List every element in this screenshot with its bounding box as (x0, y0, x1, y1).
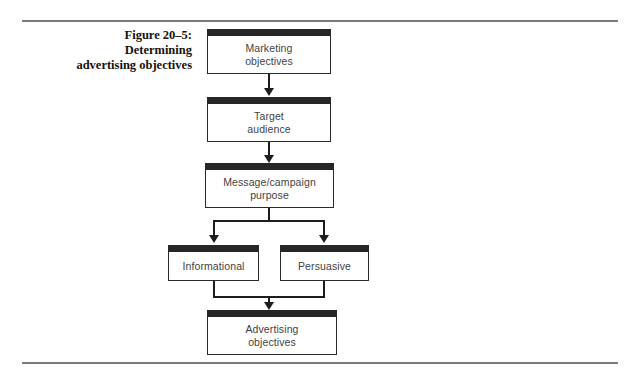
node-message-campaign-purpose-label: Message/campaign purpose (219, 176, 320, 202)
node-advertising-objectives-label: Advertising objectives (241, 323, 302, 349)
figure-top-rule (22, 20, 618, 22)
connector-message-split-bar (213, 220, 325, 222)
caption-line-3: advertising objectives (24, 58, 192, 73)
arrowhead-marketing-to-target (264, 88, 274, 96)
connector-target-to-message (268, 142, 270, 156)
figure-caption: Figure 20–5: Determining advertising obj… (24, 28, 192, 73)
node-target-audience: Target audience (207, 97, 331, 142)
connector-message-to-persuasive (323, 220, 325, 236)
node-marketing-objectives: Marketing objectives (207, 29, 331, 74)
figure-page: Figure 20–5: Determining advertising obj… (0, 0, 634, 379)
connector-message-to-informational (213, 220, 215, 236)
arrowhead-message-to-persuasive (319, 235, 329, 243)
node-persuasive-label: Persuasive (294, 260, 355, 273)
arrowhead-message-to-informational (209, 235, 219, 243)
arrowhead-merge-to-advertising (264, 302, 274, 310)
figure-bottom-rule (22, 362, 618, 364)
caption-line-1: Figure 20–5: (24, 28, 192, 43)
node-target-audience-label: Target audience (243, 110, 294, 136)
node-persuasive: Persuasive (280, 245, 369, 281)
node-advertising-objectives: Advertising objectives (207, 310, 337, 355)
node-informational-label: Informational (179, 260, 249, 273)
arrowhead-target-to-message (264, 155, 274, 163)
caption-line-2: Determining (24, 43, 192, 58)
connector-marketing-to-target (268, 74, 270, 89)
node-informational: Informational (168, 245, 259, 281)
node-message-campaign-purpose: Message/campaign purpose (205, 163, 334, 208)
node-marketing-objectives-label: Marketing objectives (241, 42, 297, 68)
